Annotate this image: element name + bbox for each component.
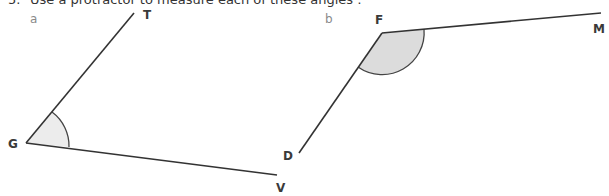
ray-FM bbox=[382, 13, 601, 33]
point-label-F: F bbox=[375, 13, 383, 27]
point-label-D: D bbox=[283, 149, 293, 163]
angle-b-sector bbox=[358, 29, 424, 75]
point-label-T: T bbox=[143, 8, 152, 22]
part-label-b: b bbox=[325, 12, 333, 26]
ray-GV bbox=[26, 143, 277, 175]
point-label-G: G bbox=[8, 137, 18, 151]
angle-b: b F M D bbox=[283, 12, 605, 163]
ray-FD bbox=[299, 33, 382, 153]
part-label-a: a bbox=[30, 12, 37, 26]
ray-GT bbox=[26, 13, 134, 143]
angle-a: a T G V bbox=[8, 8, 286, 195]
point-label-M: M bbox=[593, 22, 605, 36]
angle-diagrams: a T G V b F M D bbox=[0, 0, 609, 196]
point-label-V: V bbox=[276, 181, 286, 195]
